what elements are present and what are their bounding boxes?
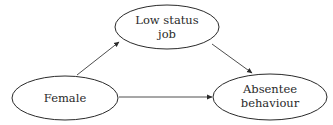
node-female: Female — [12, 76, 118, 120]
node-low-status-job-label-line1: Low status — [135, 13, 198, 27]
node-female-label: Female — [44, 91, 87, 105]
node-low-status-job-label-line2: job — [156, 27, 176, 41]
edge-female-to-low-status-job — [77, 42, 119, 75]
node-absentee-behaviour: Absentee behaviour — [213, 74, 327, 120]
path-diagram: Low status job Female Absentee behaviour — [0, 0, 333, 125]
edge-low-status-job-to-absentee-behaviour — [212, 44, 252, 73]
node-low-status-job: Low status job — [115, 5, 219, 49]
node-absentee-behaviour-label-line2: behaviour — [241, 96, 300, 110]
node-absentee-behaviour-label-line1: Absentee — [242, 82, 297, 96]
